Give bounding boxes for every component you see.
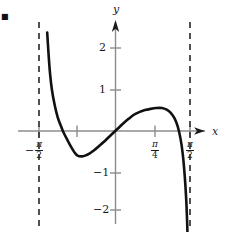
x-axis-label: x xyxy=(212,126,218,137)
x-tick-label-minus-pi-over-2: − π 2 xyxy=(25,140,43,161)
x-tick-label-pi-over-2: π 2 xyxy=(186,140,194,161)
fraction-denominator: 4 xyxy=(151,151,159,160)
math-figure: ■ y x 2 1 −1 −2 − π 2 π 4 π 2 xyxy=(0,0,231,232)
fraction-numerator: π xyxy=(35,140,43,149)
y-tick-label-2: 2 xyxy=(99,42,106,53)
fraction-denominator: 2 xyxy=(35,151,43,160)
fraction-pi-over-2: π 2 xyxy=(186,140,194,161)
y-axis-label: y xyxy=(113,4,119,15)
function-curve xyxy=(47,33,187,232)
fraction-minus-pi-over-2: π 2 xyxy=(35,140,43,161)
fraction-pi-over-4: π 4 xyxy=(151,140,159,161)
y-tick-label-minus-2: −2 xyxy=(93,204,109,215)
minus-sign: − xyxy=(25,145,34,156)
fraction-numerator: π xyxy=(186,140,194,149)
fraction-numerator: π xyxy=(151,140,159,149)
y-tick-label-1: 1 xyxy=(99,84,106,95)
x-tick-label-pi-over-4: π 4 xyxy=(151,140,159,161)
graph-canvas xyxy=(0,0,231,232)
fraction-denominator: 2 xyxy=(186,151,194,160)
y-tick-label-minus-1: −1 xyxy=(93,167,109,178)
bullet-marker: ■ xyxy=(1,13,9,21)
